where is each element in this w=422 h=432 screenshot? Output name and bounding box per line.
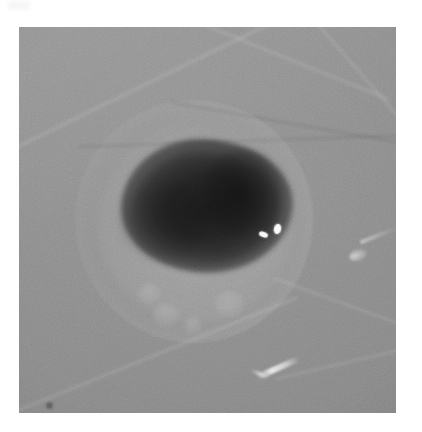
page-smudge — [8, 1, 30, 10]
vesicle-2 — [184, 317, 202, 334]
vesicle-4 — [139, 283, 161, 303]
photo-panel — [19, 27, 396, 413]
vesicle-1 — [153, 303, 179, 327]
dark-fleck — [46, 402, 53, 409]
vesicle-3 — [215, 291, 245, 317]
figure-root — [0, 0, 422, 432]
